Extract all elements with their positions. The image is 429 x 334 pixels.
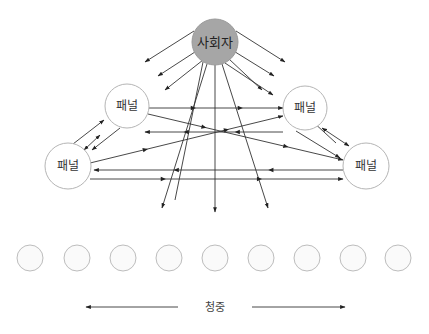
moderator-node: 사회자 [192,19,238,65]
audience-label: 청중 [205,301,225,314]
arrowhead [161,177,166,181]
audience-member [156,245,182,271]
panel-bottom-right: 패널 [343,143,389,189]
moderator-label: 사회자 [197,35,233,50]
audience-row [17,245,411,271]
panel-bottom-left: 패널 [45,143,91,189]
panel-label: 패널 [294,101,316,115]
audience-member [17,245,43,271]
arrowhead [283,144,288,148]
panel-label: 패널 [57,159,79,173]
arrowhead [201,124,206,128]
panel-top-right: 패널 [283,86,327,130]
flow-arrow [322,128,349,146]
nodes: 사회자패널패널패널패널 [45,19,389,189]
flow-arrow [222,64,268,208]
audience-member [340,245,366,271]
panel-label: 패널 [116,99,138,113]
audience-member [202,245,228,271]
flow-arrow [84,135,100,150]
audience-member [248,245,274,271]
panel-top-left: 패널 [105,84,149,128]
audience-member [64,245,90,271]
diagram-canvas: 사회자패널패널패널패널 청중 [0,0,429,334]
flow-arrow [225,63,273,95]
arrowhead [238,106,243,110]
arrowhead [142,148,148,152]
flow-arrow [229,59,262,90]
flow-arrow [73,120,104,144]
flow-arrow [158,50,198,76]
audience-member [110,245,136,271]
communication-flow-diagram: 사회자패널패널패널패널 청중 [0,0,429,334]
panel-label: 패널 [355,159,377,173]
audience-label-group: 청중 [86,301,345,314]
flow-arrow [165,60,203,90]
audience-member [294,245,320,271]
arrowhead [235,130,240,134]
arrowhead [268,168,273,172]
audience-member [385,245,411,271]
